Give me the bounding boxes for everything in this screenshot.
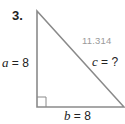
side-a-value: 8 <box>22 56 29 70</box>
side-c-eq: = <box>98 55 112 69</box>
side-c-value: ? <box>111 55 118 69</box>
side-b-label: b = 8 <box>64 108 91 124</box>
side-b-eq: = <box>71 109 85 123</box>
side-b-value: 8 <box>84 109 91 123</box>
side-a-eq: = <box>9 56 23 70</box>
handwritten-answer: 11.314 <box>82 35 112 46</box>
right-angle-marker-icon <box>37 97 46 107</box>
side-a-label: a = 8 <box>2 55 29 71</box>
side-c-label: c = ? <box>92 54 118 70</box>
